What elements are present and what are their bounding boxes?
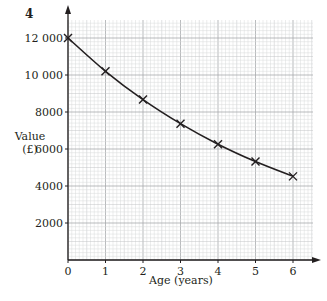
y-tick-label: 10 000 (25, 69, 64, 82)
y-axis-label-line1: Value (14, 130, 46, 143)
x-tick-label: 5 (252, 265, 259, 278)
graph-paper-grid (68, 20, 313, 260)
x-tick-label: 2 (140, 265, 147, 278)
x-tick-label: 1 (102, 265, 109, 278)
y-tick-label: 12 000 (25, 32, 64, 45)
y-tick-label: 8000 (35, 106, 63, 119)
line-chart: 0123456200040006000800010 00012 000 4 Va… (0, 0, 327, 301)
y-tick-label: 4000 (35, 180, 63, 193)
y-axis-label-line2: (£) (22, 143, 38, 156)
x-tick-label: 0 (65, 265, 72, 278)
x-tick-label: 4 (215, 265, 222, 278)
x-tick-label: 6 (290, 265, 297, 278)
y-tick-label: 6000 (35, 143, 63, 156)
x-axis-label: Age (years) (148, 274, 213, 287)
question-number: 4 (25, 7, 33, 21)
y-tick-label: 2000 (35, 217, 63, 230)
